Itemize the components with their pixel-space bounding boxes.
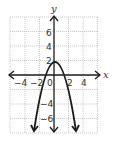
y-tick-label: −4 bbox=[40, 99, 54, 109]
y-tick-label: 2 bbox=[46, 56, 52, 66]
y-tick-label: −6 bbox=[40, 114, 54, 124]
x-axis-label: x bbox=[103, 69, 109, 80]
x-tick-label: −2 bbox=[30, 78, 43, 88]
x-tick-label: −4 bbox=[14, 78, 28, 88]
coordinate-plane: y x −4 −2 0 2 4 6 4 2 −4 −6 bbox=[0, 0, 113, 143]
y-axis-label: y bbox=[50, 3, 57, 14]
parabola bbox=[31, 62, 79, 131]
y-tick-label: 6 bbox=[46, 28, 52, 38]
x-tick-label: 0 bbox=[47, 78, 53, 88]
x-tick-label: 4 bbox=[81, 78, 87, 88]
y-tick-label: 4 bbox=[46, 42, 52, 52]
x-tick-label: 2 bbox=[67, 78, 73, 88]
